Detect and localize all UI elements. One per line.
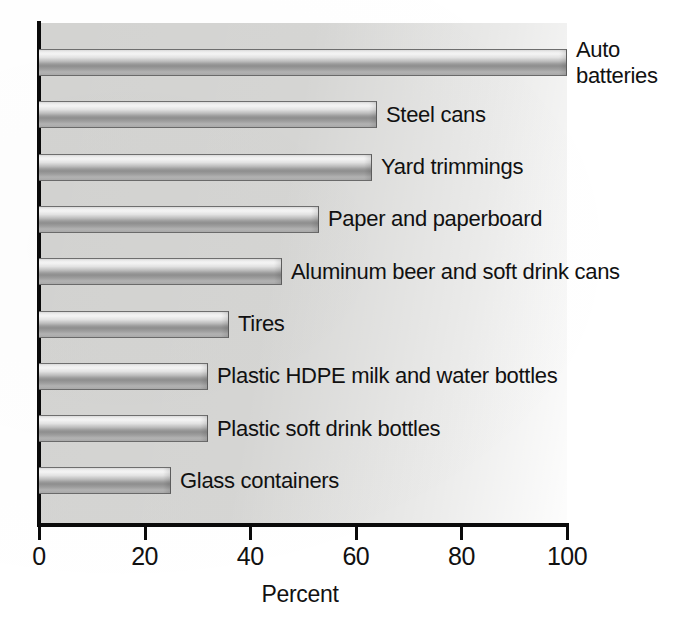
bar[interactable] (39, 467, 171, 494)
x-axis-tick-label: 100 (547, 541, 587, 571)
bar[interactable] (39, 258, 282, 285)
bar-label: Steel cans (386, 102, 486, 128)
bar-label: Auto batteries (576, 37, 658, 89)
bar[interactable] (39, 101, 377, 128)
bar-row: Paper and paperboard (39, 206, 627, 233)
bar-row: Auto batteries (39, 49, 627, 76)
bar[interactable] (39, 49, 567, 76)
bar-label: Tires (238, 311, 285, 337)
bar-row: Steel cans (39, 101, 627, 128)
bar-row: Aluminum beer and soft drink cans (39, 258, 627, 285)
bar-row: Tires (39, 311, 627, 338)
x-axis-tick-label: 20 (131, 541, 158, 571)
x-axis-tick-label: 40 (237, 541, 264, 571)
bar-row: Plastic soft drink bottles (39, 415, 627, 442)
x-axis-tick-label: 80 (448, 541, 475, 571)
bar[interactable] (39, 415, 208, 442)
bar[interactable] (39, 311, 229, 338)
x-axis-tick-mark (355, 527, 358, 540)
bar[interactable] (39, 363, 208, 390)
x-axis-tick-label: 0 (32, 541, 45, 571)
bar-row: Yard trimmings (39, 154, 627, 181)
x-axis-tick-mark (144, 527, 147, 540)
bar-label: Glass containers (180, 468, 339, 494)
bar-label: Paper and paperboard (328, 206, 542, 232)
bar[interactable] (39, 154, 372, 181)
x-axis-tick-mark (460, 527, 463, 540)
bar-row: Plastic HDPE milk and water bottles (39, 363, 627, 390)
x-axis-tick-mark (566, 527, 569, 540)
bar-chart-figure: Auto batteriesSteel cansYard trimmingsPa… (0, 0, 682, 620)
bar[interactable] (39, 206, 319, 233)
x-axis-line (37, 523, 569, 527)
x-axis-tick-mark (249, 527, 252, 540)
x-axis-tick-mark (38, 527, 41, 540)
x-axis-tick-label: 60 (342, 541, 369, 571)
x-axis-title: Percent (261, 580, 338, 608)
bar-label: Plastic soft drink bottles (217, 416, 440, 442)
bar-row: Glass containers (39, 467, 627, 494)
bar-label: Plastic HDPE milk and water bottles (217, 363, 557, 389)
bar-label: Yard trimmings (381, 154, 523, 180)
bar-label: Aluminum beer and soft drink cans (291, 259, 620, 285)
